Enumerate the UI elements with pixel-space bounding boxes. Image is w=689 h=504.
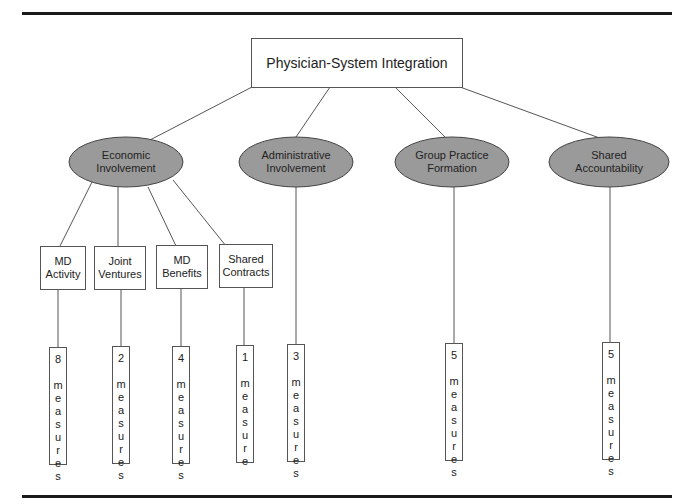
category-label: Formation: [427, 162, 477, 175]
subcat-md-benefits: MD Benefits: [156, 245, 208, 289]
category-label: Involvement: [96, 162, 155, 175]
category-shared-accountability: Shared Accountability: [552, 148, 666, 176]
measure-box-shared-contracts: 1 measure: [236, 345, 254, 463]
measure-count: 8: [55, 353, 61, 366]
subcat-label: MD: [173, 254, 190, 267]
measure-count: 5: [608, 348, 614, 361]
measure-box-joint-ventures: 2 measures: [112, 346, 130, 464]
measure-count: 3: [293, 350, 299, 363]
measure-box-group-practice: 5 measures: [445, 343, 463, 461]
category-label: Economic: [102, 149, 150, 162]
category-label: Group Practice: [415, 149, 488, 162]
category-group-practice: Group Practice Formation: [396, 148, 508, 176]
subcat-md-activity: MD Activity: [40, 246, 86, 290]
subcat-label: MD: [54, 255, 71, 268]
subcat-label: Ventures: [98, 268, 141, 281]
measure-box-administrative: 3 measures: [287, 344, 305, 462]
subcat-joint-ventures: Joint Ventures: [94, 246, 146, 290]
subcat-label: Activity: [46, 268, 81, 281]
subcat-label: Joint: [108, 255, 131, 268]
subcat-label: Benefits: [162, 267, 202, 280]
subcat-shared-contracts: Shared Contracts: [219, 244, 273, 288]
category-label: Involvement: [266, 162, 325, 175]
subcat-label: Shared: [228, 253, 263, 266]
measure-count: 2: [118, 352, 124, 365]
category-label: Accountability: [575, 162, 643, 175]
category-economic: Economic Involvement: [70, 148, 182, 176]
title-box: Physician-System Integration: [251, 38, 463, 88]
category-label: Administrative: [261, 149, 330, 162]
measure-box-md-benefits: 4 measures: [172, 346, 190, 464]
subcat-label: Contracts: [222, 266, 269, 279]
measure-box-md-activity: 8 measures: [49, 347, 67, 465]
category-label: Shared: [591, 149, 626, 162]
measure-box-shared-accountability: 5 measures: [602, 342, 620, 460]
measure-count: 5: [451, 349, 457, 362]
category-administrative: Administrative Involvement: [240, 148, 352, 176]
measure-count: 1: [242, 351, 248, 364]
measure-count: 4: [178, 352, 184, 365]
title-label: Physician-System Integration: [266, 55, 447, 71]
